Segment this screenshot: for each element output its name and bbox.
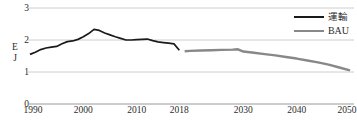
legend-swatch-bau: [294, 30, 324, 32]
legend-swatch-transport: [294, 16, 324, 18]
legend-item-bau[interactable]: BAU: [294, 25, 349, 37]
x-tick-label-2050: 2050: [338, 105, 357, 115]
y-tick-label-2: 2: [11, 35, 29, 45]
x-tick-label-2018: 2018: [170, 105, 189, 115]
y-tick-label-1: 1: [11, 67, 29, 77]
y-tick-label-3: 3: [11, 3, 29, 13]
legend-label-transport: 運輸: [328, 11, 348, 23]
legend-label-bau: BAU: [328, 25, 349, 37]
series-line-transport: [30, 29, 179, 54]
y-axis-tick-labels: 3210: [5, 0, 29, 136]
series-line-bau: [185, 49, 350, 70]
x-tick-label-2030: 2030: [234, 105, 253, 115]
x-tick-label-2040: 2040: [287, 105, 306, 115]
legend-item-transport[interactable]: 運輸: [294, 11, 349, 23]
x-tick-label-2010: 2010: [127, 105, 146, 115]
chart-legend: 運輸BAU: [294, 11, 349, 37]
x-tick-label-2000: 2000: [74, 105, 93, 115]
x-tick-label-1990: 1990: [24, 105, 43, 115]
x-axis-tick-labels: 1990200020102018203020402050: [30, 105, 350, 121]
